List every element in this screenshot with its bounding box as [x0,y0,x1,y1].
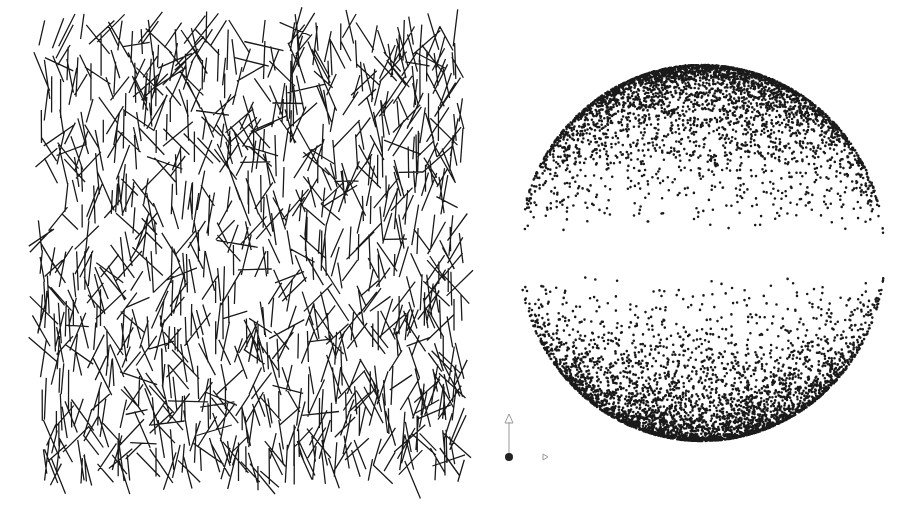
sphere-points [521,64,884,443]
x-axis-arrowhead-icon [543,454,548,460]
needle-field-panel [29,7,473,498]
sphere-point-cloud-panel [521,64,884,443]
y-axis-arrowhead-icon [505,414,513,423]
needle-segments [29,7,473,498]
axis-gizmo [505,414,548,461]
origin-dot-icon [505,453,513,461]
figure-canvas [0,0,917,508]
